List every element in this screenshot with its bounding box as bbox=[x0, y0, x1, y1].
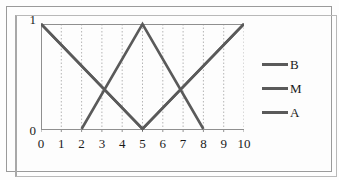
fuzzy-membership-chart-figure: 1 0 012345678910 BMA bbox=[0, 0, 339, 180]
x-axis-tick-label-3: 3 bbox=[99, 137, 106, 151]
x-axis-tick-label-4: 4 bbox=[119, 137, 126, 151]
legend-swatch-M bbox=[262, 87, 288, 90]
x-axis-tick-label-6: 6 bbox=[160, 137, 167, 151]
x-axis-tick-label-8: 8 bbox=[200, 137, 207, 151]
legend-item-A[interactable]: A bbox=[262, 105, 299, 119]
x-axis-tick-label-2: 2 bbox=[78, 137, 85, 151]
legend-swatch-A bbox=[262, 111, 288, 114]
x-axis-tick-label-0: 0 bbox=[38, 137, 45, 151]
y-axis-tick-label-bottom: 0 bbox=[18, 124, 36, 137]
x-axis-tick-label-9: 9 bbox=[220, 137, 227, 151]
legend-label-A: A bbox=[290, 106, 299, 119]
legend-label-B: B bbox=[290, 58, 299, 71]
x-axis-tick-label-7: 7 bbox=[180, 137, 187, 151]
chart-legend: BMA bbox=[262, 57, 322, 119]
x-axis-tick-label-10: 10 bbox=[238, 137, 251, 151]
plot-area bbox=[41, 20, 244, 133]
y-axis-tick-label-top: 1 bbox=[18, 13, 36, 26]
legend-swatch-B bbox=[262, 63, 288, 66]
x-axis-tick-label-5: 5 bbox=[139, 137, 146, 151]
plot-svg bbox=[41, 20, 244, 133]
legend-item-M[interactable]: M bbox=[262, 81, 302, 95]
legend-item-B[interactable]: B bbox=[262, 57, 299, 71]
x-axis-tick-label-1: 1 bbox=[58, 137, 65, 151]
x-axis-tick-labels: 012345678910 bbox=[41, 137, 244, 155]
legend-label-M: M bbox=[290, 82, 302, 95]
